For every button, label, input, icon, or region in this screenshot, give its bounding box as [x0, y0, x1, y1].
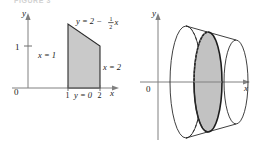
- shaded-region: [68, 24, 100, 88]
- figure-root: FIGURE 3 y x 0 1 1 2 y = 0: [0, 0, 258, 144]
- bottom-boundary-label: y = 0: [73, 90, 93, 100]
- figure-canvas: y x 0 1 1 2 y = 0 x = 1 x = 2 y = 2 − 1: [0, 0, 258, 144]
- right-y-axis-label: y: [151, 8, 156, 18]
- curve-fraction-denominator: 2: [109, 24, 112, 30]
- right-x-axis-label: x: [243, 83, 248, 93]
- left-origin-label: 0: [14, 87, 19, 97]
- curve-fraction-numerator: 1: [110, 16, 113, 22]
- right-y-axis-arrow: [155, 13, 160, 20]
- left-boundary-label: x = 1: [37, 50, 56, 60]
- left-y-axis-label: y: [21, 8, 26, 18]
- left-x-axis-label: x: [109, 88, 114, 98]
- left-panel-group: y x 0 1 1 2 y = 0 x = 1 x = 2 y = 2 − 1: [12, 8, 122, 100]
- right-panel-group: y x 0: [140, 8, 250, 140]
- curve-equation-tail: x: [114, 17, 119, 27]
- left-y-tick-label-1: 1: [15, 42, 20, 52]
- figure-caption-fragment: FIGURE 3: [14, 0, 51, 4]
- curve-equation-main: y = 2 −: [75, 16, 102, 26]
- left-y-axis-arrow: [25, 13, 30, 20]
- left-x-tick-label-2: 2: [98, 91, 102, 100]
- right-origin-label: 0: [146, 84, 151, 94]
- curve-equation-label: y = 2 − 1 2 x: [75, 16, 119, 30]
- right-boundary-label: x = 2: [102, 62, 122, 72]
- left-x-tick-label-1: 1: [66, 91, 70, 100]
